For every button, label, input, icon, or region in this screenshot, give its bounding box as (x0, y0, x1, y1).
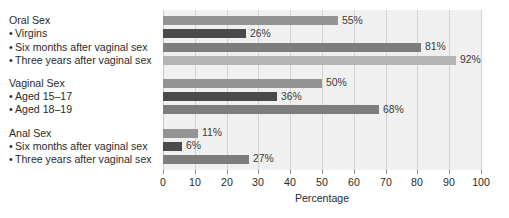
gridline-70 (386, 10, 387, 170)
x-tick-0 (163, 170, 164, 174)
bar: 55% (163, 16, 338, 25)
category-label: •Aged 15–17 (9, 90, 163, 103)
category-label-text: Virgins (15, 27, 47, 39)
category-label: •Virgins (9, 27, 163, 40)
group-header-label: Vaginal Sex (9, 77, 163, 90)
bar: 92% (163, 56, 456, 65)
bar: 81% (163, 43, 421, 52)
x-tick-60 (354, 170, 355, 174)
x-tick-20 (227, 170, 228, 174)
bar: 6% (163, 142, 182, 151)
bar: 68% (163, 105, 379, 114)
x-tick-label-100: 100 (461, 176, 501, 188)
x-tick-50 (322, 170, 323, 174)
group-header-label: Oral Sex (9, 14, 163, 27)
plot-area: 55%26%81%92%50%36%68%11%6%27% (163, 10, 481, 170)
category-label-text: Six months after vaginal sex (15, 140, 147, 152)
x-tick-10 (195, 170, 196, 174)
category-label-text: Six months after vaginal sex (15, 41, 147, 53)
category-label-text: Three years after vaginal sex (15, 54, 152, 66)
category-label: •Six months after vaginal sex (9, 41, 163, 54)
gridline-60 (354, 10, 355, 170)
bar-value-label: 36% (281, 91, 302, 101)
category-label-text: Aged 15–17 (15, 90, 72, 102)
x-tick-80 (417, 170, 418, 174)
bar: 50% (163, 79, 322, 88)
category-label: •Three years after vaginal sex (9, 153, 163, 166)
x-tick-100 (481, 170, 482, 174)
bar: 27% (163, 155, 249, 164)
x-axis: Percentage 0102030405060708090100 (163, 170, 481, 218)
x-tick-90 (449, 170, 450, 174)
category-label-text: Three years after vaginal sex (15, 153, 152, 165)
bar-value-label: 11% (202, 128, 222, 138)
bar-chart-figure: Oral Sex•Virgins•Six months after vagina… (0, 0, 509, 218)
gridline-50 (322, 10, 323, 170)
bar-value-label: 26% (250, 29, 271, 39)
bar-value-label: 6% (186, 141, 201, 151)
gridline-90 (449, 10, 450, 170)
category-label: •Aged 18–19 (9, 103, 163, 116)
bar: 36% (163, 92, 277, 101)
category-label-text: Aged 18–19 (15, 103, 72, 115)
bar: 11% (163, 129, 198, 138)
x-axis-title: Percentage (163, 192, 481, 204)
x-tick-40 (290, 170, 291, 174)
bar-value-label: 27% (253, 154, 274, 164)
bar: 26% (163, 29, 246, 38)
gridline-100 (481, 10, 482, 170)
bar-value-label: 55% (342, 15, 363, 25)
bar-value-label: 68% (383, 105, 404, 115)
bar-value-label: 81% (425, 42, 446, 52)
x-tick-70 (386, 170, 387, 174)
group-header-label: Anal Sex (9, 127, 163, 140)
bar-value-label: 50% (326, 78, 347, 88)
category-label: •Six months after vaginal sex (9, 140, 163, 153)
category-label: •Three years after vaginal sex (9, 54, 163, 67)
x-tick-30 (258, 170, 259, 174)
gridline-80 (417, 10, 418, 170)
bar-value-label: 92% (460, 55, 481, 65)
category-label-column: Oral Sex•Virgins•Six months after vagina… (0, 0, 163, 218)
